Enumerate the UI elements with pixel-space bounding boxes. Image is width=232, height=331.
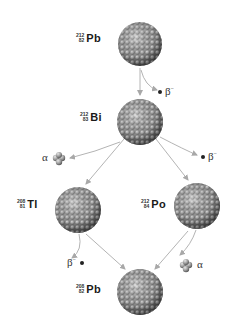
label-pb212: 212 82 Pb [76,32,101,44]
electron-icon [158,90,162,94]
element-symbol: Po [151,198,165,210]
particle-label-alpha2: α [197,258,203,270]
particle-label-beta3: β− [67,256,76,268]
arrow-tl208-pb208 [86,234,125,269]
nucleus-pb208 [117,269,163,315]
electron-icon [80,261,84,265]
element-symbol: Bi [90,111,101,123]
atomic-number: 82 [76,289,84,294]
particle-label-alpha1: α [42,151,48,163]
atomic-number: 84 [141,204,149,209]
electron-icon [201,155,205,159]
decay-arrows [70,68,197,269]
element-symbol: Pb [86,32,100,44]
element-symbol: Tl [27,198,37,210]
label-tl208: 208 81 Tl [17,198,38,210]
decay-diagram [0,0,232,331]
element-symbol: Pb [86,283,100,295]
alpha-particle-icon [180,259,192,272]
atomic-number: 82 [76,38,84,43]
arrow-beta1-emit [141,70,157,90]
label-bi212: 212 83 Bi [80,111,102,123]
alpha-particle-icon [53,152,65,165]
arrow-beta3-emit [72,234,80,258]
atomic-number: 83 [80,117,88,122]
label-po212: 212 84 Po [141,198,166,210]
arrow-bi212-tl208 [86,139,124,184]
arrow-beta2-emit [160,137,197,155]
nucleus-pb212 [118,22,162,66]
particle-label-beta1: β− [165,85,174,97]
label-pb208: 208 82 Pb [76,283,101,295]
arrow-alpha1-emit [70,142,120,158]
atomic-number: 81 [17,204,25,209]
nucleus-po212 [174,183,220,229]
arrow-alpha2-emit [180,230,196,255]
particle-label-beta2: β− [208,150,217,162]
nucleus-tl208 [55,187,101,233]
arrow-bi212-po212 [156,139,188,180]
nucleus-bi212 [117,99,163,145]
